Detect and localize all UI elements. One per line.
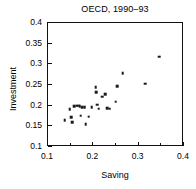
x-tick-label: 0.3 [132,151,144,161]
data-point [97,107,100,110]
chart-title: OECD, 1990–93 [47,4,183,14]
y-axis-tick [48,84,52,85]
y-axis-title: Investment [8,54,18,124]
y-tick-label: 0.35 [8,38,42,48]
x-axis-tick [138,142,139,146]
y-axis-tick [48,105,52,106]
data-point [95,91,98,94]
y-tick-label: 0.4 [8,17,42,27]
data-point [104,93,107,96]
data-point [88,116,91,119]
x-tick-label: 0.4 [177,151,189,161]
x-axis-tick [70,143,71,146]
y-axis-tick [48,125,52,126]
data-point [63,119,66,122]
y-axis-tick [48,22,52,23]
x-tick-label: 0.2 [86,151,98,161]
data-point [108,107,111,110]
data-point [71,121,74,124]
data-point [83,106,86,109]
x-axis-tick [183,142,184,146]
data-point [101,95,104,98]
data-point [70,116,73,119]
y-axis-tick [48,146,52,147]
data-point [68,108,71,111]
data-point [96,104,99,107]
y-tick-label: 0.1 [8,141,42,151]
data-point [144,82,147,85]
x-axis-tick [92,142,93,146]
data-point [114,100,117,103]
x-tick-label: 0.1 [41,151,53,161]
x-axis-tick [115,143,116,146]
x-axis-title: Saving [47,170,183,180]
data-point [158,56,161,59]
y-axis-tick [48,63,52,64]
plot-frame [47,22,183,146]
data-point [94,86,97,89]
x-axis-tick [160,143,161,146]
scatter-plot-figure: OECD, 1990–93 0.10.20.30.40.10.150.20.25… [0,0,196,189]
data-point [79,114,82,117]
plot-data-area [48,23,182,145]
data-point [116,85,119,88]
data-point [122,72,125,75]
data-point [90,106,93,109]
data-point [84,123,87,126]
y-axis-tick [48,43,52,44]
